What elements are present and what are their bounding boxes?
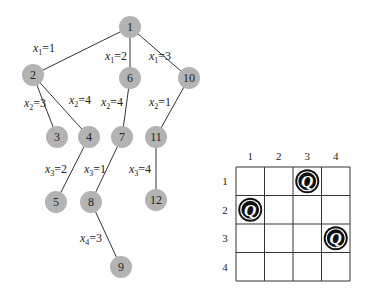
tree-node-10: 10 <box>178 67 200 89</box>
tree-node-4: 4 <box>78 126 100 148</box>
tree-node-11: 11 <box>145 126 167 148</box>
edge-label: x1=3 <box>148 49 171 65</box>
backtracking-diagram: x1=1x1=2x1=3x2=3x2=4x2=4x2=1x3=2x3=1x3=4… <box>0 0 366 303</box>
tree-node-3: 3 <box>46 126 68 148</box>
node-label: 9 <box>118 260 124 274</box>
node-label: 7 <box>119 130 125 144</box>
tree-node-1: 1 <box>119 16 141 38</box>
tree-node-7: 7 <box>111 126 133 148</box>
queen-icon: Q <box>324 226 348 250</box>
edge-label: x4=3 <box>79 231 102 247</box>
node-label: 6 <box>127 71 133 85</box>
column-label: 1 <box>248 150 254 162</box>
svg-text:Q: Q <box>330 229 342 248</box>
node-label: 1 <box>127 20 133 34</box>
column-label: 3 <box>305 150 311 162</box>
four-queens-board: 12341234QQQ <box>222 150 350 281</box>
tree-node-6: 6 <box>119 67 141 89</box>
tree-node-5: 5 <box>45 191 67 213</box>
svg-text:Q: Q <box>244 201 256 220</box>
column-label: 4 <box>333 150 339 162</box>
node-label: 5 <box>53 195 59 209</box>
tree-node-9: 9 <box>110 256 132 278</box>
queen-icon: Q <box>238 198 262 222</box>
node-label: 4 <box>86 130 92 144</box>
node-label: 2 <box>30 68 36 82</box>
row-label: 4 <box>222 261 228 273</box>
row-label: 2 <box>222 204 228 216</box>
tree-node-2: 2 <box>22 64 44 86</box>
edge-label: x1=2 <box>104 49 127 65</box>
node-label: 3 <box>54 130 60 144</box>
edge-label: x3=2 <box>44 162 67 178</box>
row-label: 1 <box>222 175 228 187</box>
svg-text:Q: Q <box>301 172 313 191</box>
edge-label: x3=1 <box>83 162 106 178</box>
edge-label: x2=4 <box>100 95 123 111</box>
queen-icon: Q <box>295 169 319 193</box>
node-label: 12 <box>150 193 162 207</box>
edge-label: x3=4 <box>128 162 151 178</box>
edge-label: x1=1 <box>32 41 55 57</box>
column-label: 2 <box>276 150 282 162</box>
edge-label: x2=3 <box>23 96 46 112</box>
tree-node-12: 12 <box>145 189 167 211</box>
edge-label: x2=4 <box>68 93 91 109</box>
node-label: 8 <box>88 195 94 209</box>
edge-label: x2=1 <box>148 95 171 111</box>
tree-node-8: 8 <box>80 191 102 213</box>
node-label: 11 <box>150 130 162 144</box>
node-label: 10 <box>183 71 195 85</box>
row-label: 3 <box>222 232 228 244</box>
